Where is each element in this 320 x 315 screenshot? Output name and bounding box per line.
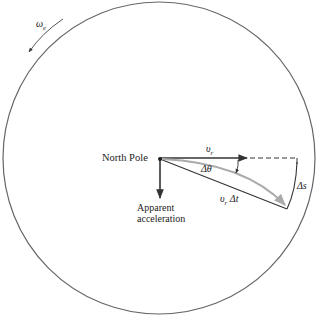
- diagram-canvas: [0, 0, 320, 315]
- vr-dt-label: υr Δt: [220, 193, 238, 209]
- omega-label: ωe: [36, 18, 46, 34]
- apparent-label: Apparent: [137, 202, 174, 213]
- north-pole-label: North Pole: [102, 152, 148, 163]
- delta-theta-arc: [236, 160, 238, 173]
- delta-s-label: Δs: [297, 180, 307, 191]
- delta-s-arc: [287, 162, 297, 209]
- north-pole-point: [158, 157, 162, 161]
- acceleration-label: acceleration: [137, 213, 185, 224]
- vr-label: υr: [206, 143, 213, 159]
- delta-theta-label: Δθ: [201, 163, 212, 174]
